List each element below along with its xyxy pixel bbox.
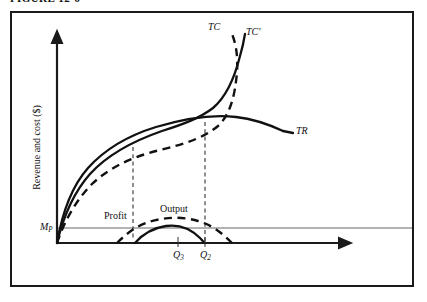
curve-label-tc: TC — [208, 22, 220, 32]
profit-region-label: Profit — [104, 211, 127, 221]
curve-label-tc-prime: TC′ — [246, 27, 260, 37]
curve-profit-dashed — [117, 218, 232, 243]
q2-subscript: 2 — [207, 254, 211, 262]
tr-label-leader — [283, 131, 293, 133]
curve-tc-prime — [57, 34, 245, 243]
y-axis-label: Revenue and cost ($) — [31, 88, 42, 208]
mp-marker-label: MP — [40, 222, 53, 232]
curve-tc — [57, 34, 237, 243]
mp-marker-subscript: P — [48, 226, 52, 234]
chart-plot-area — [0, 0, 427, 302]
x-tick-label-q2: Q2 — [200, 250, 211, 260]
q3-subscript: 3 — [180, 254, 184, 262]
curve-tr — [57, 116, 283, 243]
curve-label-tr: TR — [296, 126, 308, 136]
x-tick-label-q3: Q3 — [173, 250, 184, 260]
x-axis-label: Output — [160, 204, 188, 214]
